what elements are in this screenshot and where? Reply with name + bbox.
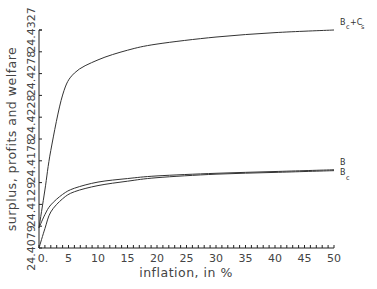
series-line-b bbox=[39, 170, 334, 228]
x-tick-labels: 0.5101520253035404550 bbox=[38, 252, 341, 265]
y-tick-label: 24.4178 bbox=[25, 138, 38, 184]
series-label-b: B bbox=[340, 158, 346, 167]
y-tick-label: 24.4278 bbox=[25, 51, 38, 97]
x-tick-label: 5 bbox=[65, 252, 72, 265]
series-label-bc-cs: B c +C s bbox=[340, 18, 365, 31]
chart: 0.5101520253035404550 24.407924.412924.4… bbox=[0, 0, 377, 289]
x-tick-label: 15 bbox=[121, 252, 135, 265]
y-tick-labels: 24.407924.412924.417824.422824.427824.43… bbox=[25, 7, 38, 271]
x-tick-label: 50 bbox=[327, 252, 341, 265]
x-tick-label: 25 bbox=[180, 252, 194, 265]
x-axis-title: inflation, in % bbox=[139, 265, 233, 280]
svg-text:B: B bbox=[340, 168, 346, 177]
x-tick-label: 45 bbox=[298, 252, 312, 265]
series-lines bbox=[39, 30, 334, 248]
y-tick-label: 24.4129 bbox=[25, 182, 38, 228]
x-tick-label: 30 bbox=[209, 252, 223, 265]
series-line-bc bbox=[39, 171, 334, 248]
series-label-bc: B c bbox=[340, 168, 350, 182]
series-line-bc-cs bbox=[39, 30, 334, 228]
svg-text:B: B bbox=[340, 158, 346, 167]
svg-text:B: B bbox=[340, 18, 346, 27]
y-tick-label: 24.4079 bbox=[25, 225, 38, 271]
x-tick-label: 0. bbox=[38, 252, 49, 265]
y-tick-label: 24.4327 bbox=[25, 7, 38, 53]
x-tick-label: 40 bbox=[268, 252, 282, 265]
svg-text:s: s bbox=[361, 23, 365, 31]
x-tick-label: 20 bbox=[150, 252, 164, 265]
y-axis-title: surplus, profits and welfare bbox=[4, 47, 19, 232]
x-tick-label: 35 bbox=[239, 252, 253, 265]
svg-text:c: c bbox=[346, 174, 350, 182]
x-tick-label: 10 bbox=[91, 252, 105, 265]
y-tick-label: 24.4228 bbox=[25, 94, 38, 140]
